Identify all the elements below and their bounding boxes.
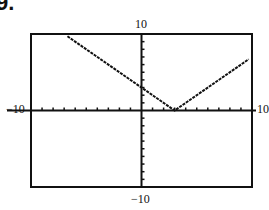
graph-window	[0, 0, 269, 210]
function-curve	[67, 36, 248, 110]
